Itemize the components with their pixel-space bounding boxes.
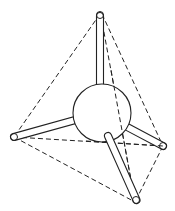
edge-right-bottom [135, 146, 163, 202]
tetrahedral-molecule-diagram [0, 0, 175, 211]
bond-top [97, 13, 104, 96]
bond-right [124, 123, 167, 151]
bond-bottom [103, 131, 141, 204]
